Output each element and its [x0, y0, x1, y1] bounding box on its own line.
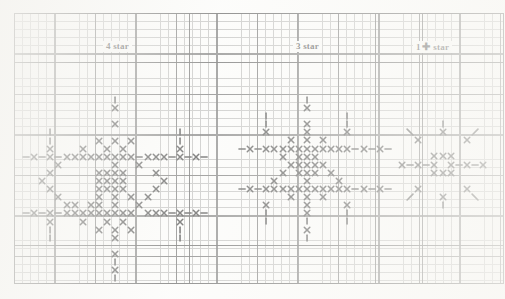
horizontal-backstitch-mark: [38, 153, 46, 161]
cross-stitch-mark: [87, 153, 95, 161]
cross-stitch-mark: [311, 153, 319, 161]
cross-stitch-mark: [111, 104, 119, 112]
vertical-backstitch-mark: [343, 112, 351, 120]
cross-stitch-mark: [95, 169, 103, 177]
cross-stitch-mark: [192, 153, 200, 161]
cross-stitch-mark: [111, 177, 119, 185]
vertical-backstitch-mark: [343, 120, 351, 128]
horizontal-backstitch-mark: [422, 161, 430, 169]
cross-stitch-mark: [430, 169, 438, 177]
cross-stitch-mark: [54, 193, 62, 201]
cross-stitch-mark: [63, 201, 71, 209]
cross-stitch-mark: [127, 209, 135, 217]
cross-stitch-mark: [463, 136, 471, 144]
grid-edge-right: [503, 13, 504, 284]
cross-stitch-mark: [319, 161, 327, 169]
cross-stitch-mark: [95, 153, 103, 161]
cross-stitch-mark: [463, 185, 471, 193]
cross-stitch-mark: [103, 185, 111, 193]
cross-stitch-mark: [119, 218, 127, 226]
label-1-star: 1✚ star: [413, 41, 452, 53]
cross-stitch-mark: [270, 145, 278, 153]
horizontal-backstitch-mark: [54, 209, 62, 217]
cross-stitch-mark: [311, 161, 319, 169]
cross-stitch-mark: [111, 266, 119, 274]
cross-stitch-mark: [152, 185, 160, 193]
cross-stitch-mark: [192, 209, 200, 217]
cross-stitch-mark: [135, 161, 143, 169]
cross-stitch-mark: [319, 193, 327, 201]
horizontal-backstitch-mark: [351, 145, 359, 153]
cross-stitch-mark: [262, 128, 270, 136]
vertical-backstitch-mark: [262, 209, 270, 217]
cross-stitch-mark: [103, 218, 111, 226]
grid-edge-left: [14, 13, 15, 284]
cross-stitch-mark: [103, 153, 111, 161]
cross-stitch-mark: [303, 209, 311, 217]
cross-stitch-mark: [414, 161, 422, 169]
cross-stitch-mark: [103, 145, 111, 153]
cross-stitch-mark: [111, 193, 119, 201]
cross-stitch-mark: [144, 209, 152, 217]
cross-stitch-mark: [319, 145, 327, 153]
cross-stitch-mark: [135, 201, 143, 209]
cross-stitch-mark: [439, 128, 447, 136]
cross-stitch-mark: [246, 185, 254, 193]
vertical-backstitch-mark: [111, 258, 119, 266]
grid-edge-top: [14, 13, 504, 14]
cross-stitch-mark: [111, 153, 119, 161]
cross-stitch-mark: [287, 185, 295, 193]
cross-stitch-mark: [38, 177, 46, 185]
cross-stitch-mark: [262, 185, 270, 193]
cross-stitch-mark: [111, 226, 119, 234]
cross-stitch-mark: [295, 185, 303, 193]
cross-stitch-mark: [287, 161, 295, 169]
horizontal-backstitch-mark: [238, 145, 246, 153]
cross-stitch-mark: [95, 193, 103, 201]
cross-stitch-mark: [430, 152, 438, 160]
cross-stitch-mark: [176, 145, 184, 153]
cross-stitch-mark: [335, 185, 343, 193]
cross-stitch-mark: [303, 185, 311, 193]
horizontal-backstitch-mark: [254, 145, 262, 153]
cross-stitch-mark: [303, 161, 311, 169]
cross-stitch-mark: [343, 145, 351, 153]
cross-stitch-mark: [71, 201, 79, 209]
cross-stitch-mark: [303, 169, 311, 177]
cross-stitch-mark: [111, 169, 119, 177]
horizontal-backstitch-mark: [168, 153, 176, 161]
cross-stitch-mark: [119, 145, 127, 153]
vertical-backstitch-mark: [303, 234, 311, 242]
cross-stitch-mark: [447, 161, 455, 169]
cross-stitch-mark: [262, 145, 270, 153]
vertical-backstitch-mark: [176, 137, 184, 145]
vertical-backstitch-mark: [46, 226, 54, 234]
horizontal-backstitch-mark: [406, 161, 414, 169]
cross-stitch-mark: [119, 169, 127, 177]
cross-stitch-mark: [327, 145, 335, 153]
cross-stitch-mark: [295, 145, 303, 153]
cross-stitch-mark: [127, 137, 135, 145]
diagonal-backstitch-mark: [406, 128, 414, 136]
horizontal-backstitch-mark: [184, 153, 192, 161]
cross-stitch-mark: [46, 209, 54, 217]
cross-stitch-mark: [119, 177, 127, 185]
cross-stitch-mark: [54, 161, 62, 169]
cross-stitch-mark: [95, 137, 103, 145]
cross-stitch-mark: [287, 136, 295, 144]
cross-stitch-mark: [95, 209, 103, 217]
cross-stitch-mark: [303, 104, 311, 112]
cross-stitch-mark: [295, 153, 303, 161]
horizontal-backstitch-mark: [471, 161, 479, 169]
cross-stitch-mark: [398, 161, 406, 169]
cross-stitch-mark: [279, 169, 287, 177]
cross-stitch-mark: [119, 153, 127, 161]
vertical-backstitch-mark: [439, 120, 447, 128]
cross-stitch-mark: [376, 185, 384, 193]
cross-stitch-mark: [311, 145, 319, 153]
cross-stitch-mark: [311, 169, 319, 177]
vertical-backstitch-mark: [176, 226, 184, 234]
horizontal-backstitch-mark: [254, 185, 262, 193]
cross-stitch-mark: [111, 234, 119, 242]
cross-stitch-mark: [95, 185, 103, 193]
